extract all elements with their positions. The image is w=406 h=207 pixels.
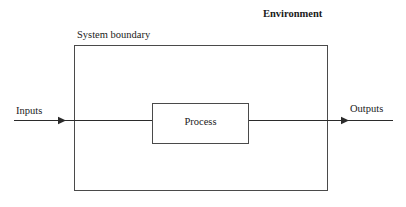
- environment-label: Environment: [263, 8, 323, 19]
- inputs-label: Inputs: [16, 105, 42, 116]
- outputs-label: Outputs: [350, 103, 383, 114]
- input-arrowhead-icon: [58, 117, 66, 124]
- process-label: Process: [184, 116, 216, 127]
- system-boundary-diagram: Environment System boundary Process Inpu…: [0, 0, 406, 207]
- diagram-root: Environment System boundary Process Inpu…: [0, 0, 406, 207]
- output-arrowhead-icon: [341, 117, 349, 124]
- system-boundary-label: System boundary: [77, 29, 151, 40]
